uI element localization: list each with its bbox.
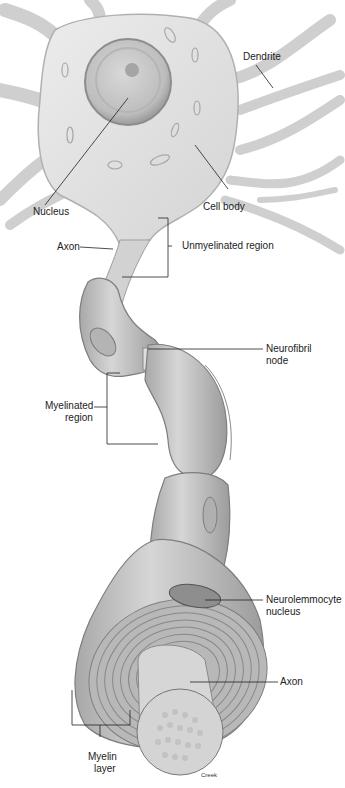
label-myelin-layer-line1: Myelin <box>88 751 117 763</box>
label-neurofibril-node-line1: Neurofibril <box>266 343 312 355</box>
axon-cross-section <box>137 689 223 775</box>
label-myelin-layer-line2: layer <box>94 763 116 775</box>
label-neurolemmocyte-nucleus-line1: Neurolemmocyte <box>266 594 342 606</box>
artist-signature: Creek <box>201 772 217 778</box>
label-myelinated-region-line1: Myelinated <box>45 400 93 412</box>
label-unmyelinated-region: Unmyelinated region <box>182 240 274 252</box>
label-dendrite: Dendrite <box>243 51 281 63</box>
label-cell-body: Cell body <box>203 201 245 213</box>
label-axon-top: Axon <box>57 241 80 253</box>
label-nucleus: Nucleus <box>33 206 69 218</box>
label-myelinated-region-line2: region <box>65 412 93 424</box>
label-neurofibril-node-line2: node <box>266 355 288 367</box>
label-axon-bottom: Axon <box>280 676 303 688</box>
neuron-illustration <box>0 0 345 788</box>
label-neurolemmocyte-nucleus-line2: nucleus <box>266 606 300 618</box>
